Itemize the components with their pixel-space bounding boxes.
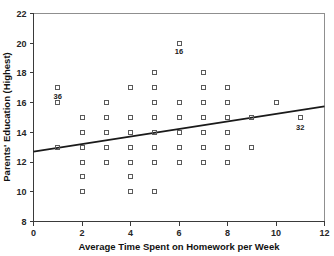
data-point <box>104 160 108 164</box>
data-point-label: 32 <box>296 123 304 132</box>
data-point <box>104 116 108 120</box>
x-tick-label: 6 <box>176 228 181 238</box>
y-tick-label: 20 <box>16 39 26 49</box>
data-point <box>201 116 205 120</box>
y-tick-label: 10 <box>16 187 26 197</box>
y-tick-label: 14 <box>16 128 26 138</box>
data-point <box>226 86 230 90</box>
data-point <box>104 130 108 134</box>
data-point <box>104 145 108 149</box>
data-point <box>177 101 181 105</box>
data-point <box>129 130 133 134</box>
data-point <box>201 145 205 149</box>
data-point <box>153 145 157 149</box>
y-tick-label: 22 <box>16 9 26 19</box>
data-point <box>153 116 157 120</box>
data-point <box>129 145 133 149</box>
data-point <box>80 190 84 194</box>
scatter-plot-figure: 810121416182022 024681012 361632 Average… <box>0 0 334 256</box>
data-point <box>201 130 205 134</box>
data-point <box>177 160 181 164</box>
data-point-label: 16 <box>175 47 183 56</box>
data-point <box>226 160 230 164</box>
data-point <box>153 101 157 105</box>
data-point <box>201 160 205 164</box>
data-point <box>80 160 84 164</box>
data-point <box>226 145 230 149</box>
plot-svg: 810121416182022 024681012 361632 Average… <box>0 0 334 256</box>
data-point <box>129 190 133 194</box>
data-point <box>153 71 157 75</box>
x-tick-label: 0 <box>31 228 36 238</box>
x-axis-title: Average Time Spent on Homework per Week <box>79 241 281 252</box>
data-point <box>201 71 205 75</box>
data-point <box>177 130 181 134</box>
y-tick-label: 8 <box>21 217 26 227</box>
data-point <box>201 86 205 90</box>
data-point <box>274 101 278 105</box>
x-tick-label: 4 <box>128 228 133 238</box>
data-point <box>177 116 181 120</box>
x-tick-label: 10 <box>271 228 281 238</box>
x-axis-ticks: 024681012 <box>31 222 330 239</box>
data-point <box>129 160 133 164</box>
data-point <box>104 101 108 105</box>
data-point <box>250 145 254 149</box>
plot-axis-left-bottom <box>34 14 325 222</box>
data-point <box>226 130 230 134</box>
data-point <box>80 130 84 134</box>
y-axis-ticks: 810121416182022 <box>16 9 33 227</box>
data-point <box>56 101 60 105</box>
data-point <box>298 116 302 120</box>
data-point <box>177 41 181 45</box>
data-point-label: 36 <box>54 92 62 101</box>
data-point <box>129 175 133 179</box>
y-tick-label: 18 <box>16 68 26 78</box>
data-point <box>129 116 133 120</box>
plot-border-top-right <box>34 14 325 222</box>
y-axis-title: Parents' Education (Highest) <box>1 52 12 181</box>
data-point <box>80 145 84 149</box>
data-point <box>80 116 84 120</box>
y-tick-label: 12 <box>16 157 26 167</box>
data-point <box>177 145 181 149</box>
data-point <box>201 101 205 105</box>
plot-frame <box>34 14 325 222</box>
data-point <box>129 86 133 90</box>
data-point <box>226 101 230 105</box>
data-point <box>56 86 60 90</box>
data-point <box>153 86 157 90</box>
data-point <box>226 116 230 120</box>
data-points-group <box>56 41 303 194</box>
data-point <box>153 190 157 194</box>
data-point <box>153 160 157 164</box>
x-tick-label: 12 <box>319 228 329 238</box>
data-point <box>80 175 84 179</box>
y-tick-label: 16 <box>16 98 26 108</box>
x-tick-label: 2 <box>79 228 84 238</box>
x-tick-label: 8 <box>225 228 230 238</box>
